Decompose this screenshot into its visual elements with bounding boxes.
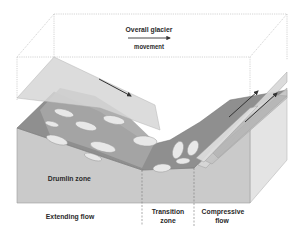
drumlin-zone-label: Drumlin zone <box>48 174 91 183</box>
compressive-text-2: flow <box>202 216 243 225</box>
compressive-text-1: Compressive <box>202 207 243 216</box>
transition-text-1: Transition <box>151 207 185 216</box>
extending-flow-label: Extending flow <box>45 212 96 221</box>
transition-text-2: zone <box>151 216 185 225</box>
title-line-2: movement <box>124 42 173 51</box>
title-line-1: Overall glacier <box>124 25 173 34</box>
glacier-flow-diagram <box>0 0 298 237</box>
compressive-flow-label: Compressive flow <box>202 207 243 225</box>
extending-flow-text: Extending flow <box>45 212 96 221</box>
overall-movement-label-2: movement <box>124 42 173 51</box>
transition-zone-label: Transition zone <box>151 207 185 225</box>
overall-movement-label: Overall glacier <box>124 25 173 34</box>
